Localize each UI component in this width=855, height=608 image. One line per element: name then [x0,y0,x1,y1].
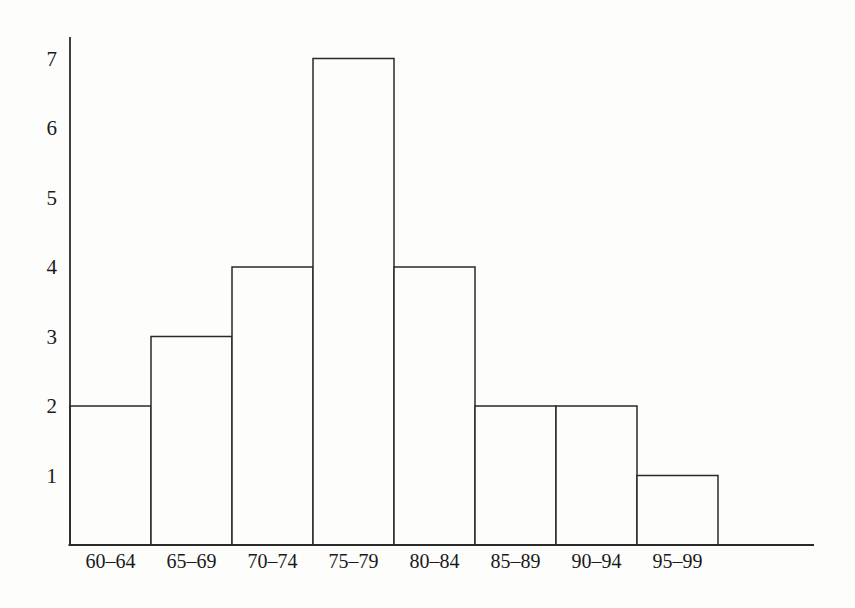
bar-80-84 [394,267,475,545]
y-tick-label-4: 4 [47,255,58,279]
y-tick-label-1: 1 [47,464,58,488]
bar-65-69 [151,337,232,546]
x-category-label-85-89: 85–89 [491,550,541,572]
y-tick-label-3: 3 [47,325,58,349]
histogram-chart: 123456760–6465–6970–7475–7980–8485–8990–… [0,0,855,608]
bar-85-89 [475,406,556,545]
bar-75-79 [313,59,394,546]
x-category-label-95-99: 95–99 [653,550,703,572]
bar-60-64 [70,406,151,545]
bar-70-74 [232,267,313,545]
x-category-label-80-84: 80–84 [410,550,460,572]
y-tick-label-2: 2 [47,394,58,418]
x-category-label-75-79: 75–79 [329,550,379,572]
x-category-label-90-94: 90–94 [572,550,622,572]
histogram-page: 123456760–6465–6970–7475–7980–8485–8990–… [0,0,855,608]
bar-90-94 [556,406,637,545]
bar-95-99 [637,476,718,546]
y-tick-label-7: 7 [47,47,58,71]
x-category-label-65-69: 65–69 [167,550,217,572]
x-category-label-60-64: 60–64 [86,550,136,572]
y-tick-label-6: 6 [47,116,58,140]
y-tick-label-5: 5 [47,186,58,210]
x-category-label-70-74: 70–74 [248,550,298,572]
